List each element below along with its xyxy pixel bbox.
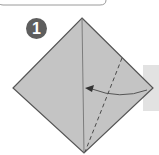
header-box-border — [0, 0, 106, 5]
diagram-canvas — [0, 0, 159, 155]
origami-step-diagram: 1 — [0, 0, 159, 155]
step-number-badge: 1 — [26, 18, 47, 39]
